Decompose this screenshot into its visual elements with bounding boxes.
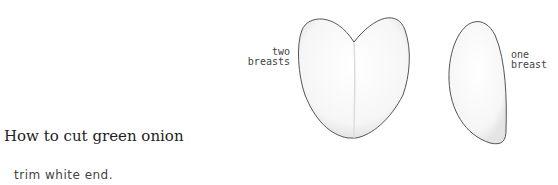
section-heading: How to cut green onion — [4, 127, 184, 145]
two-breasts-label-line2: breasts — [245, 57, 290, 67]
step-caption: trim white end. — [14, 168, 113, 182]
one-breast-shape — [449, 22, 506, 144]
one-breast-label-line2: breast — [511, 60, 547, 70]
chicken-breast-illustration — [0, 0, 558, 185]
one-breast-label: one breast — [511, 50, 547, 70]
two-breasts-label: two breasts — [245, 47, 290, 67]
